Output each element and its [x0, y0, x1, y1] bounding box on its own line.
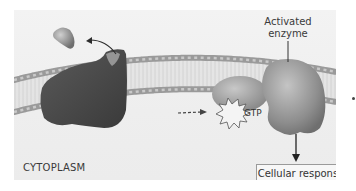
activated-enzyme-label-line2: enzyme [258, 28, 318, 40]
dashed-arrow [178, 109, 207, 115]
response-arrow [292, 134, 300, 162]
ligand-molecule [53, 27, 75, 48]
diagram-panel: Activated enzyme GTP CYTOPLASM Cellular … [14, 10, 336, 180]
cellular-response-box: Cellular response [256, 164, 336, 180]
cytoplasm-label: CYTOPLASM [23, 162, 85, 174]
margin-dot [352, 97, 355, 100]
activated-enzyme-label-line1: Activated [258, 16, 318, 28]
activated-enzyme-label: Activated enzyme [258, 16, 318, 40]
gtp-label: GTP [244, 108, 262, 118]
